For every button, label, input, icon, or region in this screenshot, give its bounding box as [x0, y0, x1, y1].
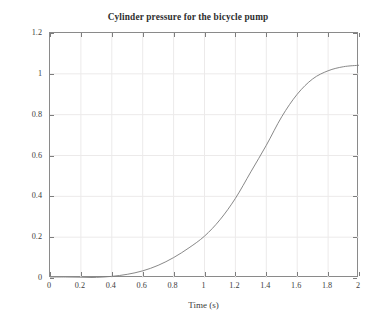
x-tick-mark: [112, 33, 113, 37]
x-tick-mark: [328, 272, 329, 276]
grid-lines: [50, 33, 359, 278]
y-tick-label: 0.6: [0, 150, 42, 159]
y-tick-label: 0: [0, 273, 42, 282]
x-tick-label: 1.8: [322, 281, 332, 290]
y-tick-mark: [50, 156, 54, 157]
y-tick-mark: [353, 33, 357, 34]
x-tick-mark: [297, 272, 298, 276]
x-tick-mark: [174, 33, 175, 37]
y-tick-mark: [50, 278, 54, 279]
y-tick-mark: [50, 115, 54, 116]
x-tick-label: 0.4: [106, 281, 116, 290]
x-tick-mark: [328, 33, 329, 37]
y-tick-label: 1.2: [0, 28, 42, 37]
y-tick-mark: [353, 196, 357, 197]
y-tick-mark: [353, 156, 357, 157]
x-tick-mark: [205, 272, 206, 276]
y-tick-label: 0.8: [0, 109, 42, 118]
x-tick-mark: [112, 272, 113, 276]
chart-title: Cylinder pressure for the bicycle pump: [0, 12, 376, 22]
x-tick-mark: [205, 33, 206, 37]
x-tick-mark: [266, 33, 267, 37]
plot-area: [49, 32, 358, 277]
y-tick-label: 0.2: [0, 232, 42, 241]
x-tick-label: 1.6: [291, 281, 301, 290]
x-tick-mark: [235, 33, 236, 37]
y-tick-mark: [353, 115, 357, 116]
x-tick-label: 0.6: [137, 281, 147, 290]
x-tick-mark: [143, 272, 144, 276]
x-tick-label: 0.2: [75, 281, 85, 290]
x-tick-mark: [297, 33, 298, 37]
x-axis-title: Time (s): [49, 300, 358, 310]
x-tick-label: 1.2: [229, 281, 239, 290]
x-tick-mark: [359, 33, 360, 37]
y-tick-label: 0.4: [0, 191, 42, 200]
chart-figure: Cylinder pressure for the bicycle pump 0…: [0, 0, 376, 323]
x-tick-label: 0: [47, 281, 51, 290]
x-tick-mark: [81, 33, 82, 37]
x-tick-label: 0.8: [167, 281, 177, 290]
y-tick-mark: [353, 74, 357, 75]
y-tick-mark: [50, 196, 54, 197]
y-tick-mark: [353, 237, 357, 238]
y-tick-mark: [50, 237, 54, 238]
y-tick-mark: [50, 74, 54, 75]
y-tick-mark: [353, 278, 357, 279]
x-tick-mark: [50, 272, 51, 276]
x-tick-mark: [50, 33, 51, 37]
x-tick-mark: [81, 272, 82, 276]
y-tick-label: 1: [0, 68, 42, 77]
x-tick-mark: [143, 33, 144, 37]
x-tick-mark: [235, 272, 236, 276]
x-tick-label: 1: [201, 281, 205, 290]
x-tick-label: 1.4: [260, 281, 270, 290]
x-tick-mark: [174, 272, 175, 276]
x-tick-mark: [266, 272, 267, 276]
x-tick-mark: [359, 272, 360, 276]
x-tick-label: 2: [356, 281, 360, 290]
plot-canvas: [50, 33, 359, 278]
